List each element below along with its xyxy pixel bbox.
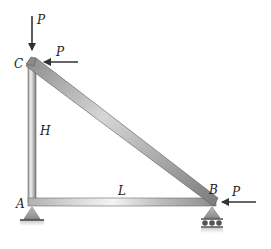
dimension-label-height: H (39, 124, 51, 138)
load-label-c-horizontal: P (55, 45, 65, 59)
node-label-c: C (14, 57, 23, 71)
dimension-label-length: L (117, 184, 126, 198)
truss-diagram: P P P C A B H L (0, 0, 271, 249)
node-label-a: A (15, 197, 25, 211)
member-ab (28, 198, 216, 206)
load-label-b-horizontal: P (231, 185, 241, 199)
member-ac (28, 64, 36, 202)
node-label-b: B (208, 183, 218, 197)
load-label-c-vertical: P (36, 13, 46, 27)
roller-support-b (201, 207, 223, 233)
